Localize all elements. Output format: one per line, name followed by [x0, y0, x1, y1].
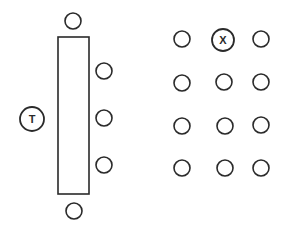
- table-group: T: [20, 13, 112, 219]
- table-seat-circle: [65, 13, 81, 29]
- table-rectangle: [58, 37, 89, 194]
- table-seat-circle: [66, 203, 82, 219]
- seat-grid: X: [174, 29, 269, 176]
- grid-seat-circle: [217, 160, 233, 176]
- grid-seat-circle: [253, 117, 269, 133]
- grid-seat-circle: [253, 31, 269, 47]
- grid-seat-circle: [216, 74, 232, 90]
- head-seat-label: T: [29, 113, 36, 125]
- grid-seat-circle: [253, 74, 269, 90]
- seating-diagram: T X: [0, 0, 284, 230]
- grid-seat-circle: [174, 31, 190, 47]
- table-seat-circle: [96, 63, 112, 79]
- marked-seat-label: X: [219, 34, 227, 46]
- table-seat-circle: [96, 110, 112, 126]
- grid-seat-circle: [253, 160, 269, 176]
- grid-seat-circle: [217, 118, 233, 134]
- grid-seat-circle: [174, 160, 190, 176]
- table-seat-circle: [96, 157, 112, 173]
- grid-seat-circle: [174, 118, 190, 134]
- grid-seat-circle: [174, 75, 190, 91]
